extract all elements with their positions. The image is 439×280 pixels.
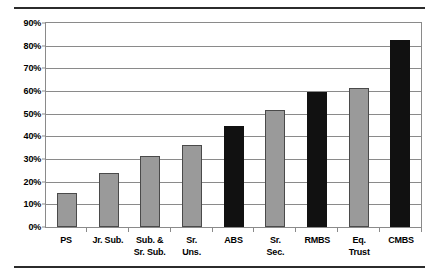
bar [349, 88, 369, 227]
x-axis-tick-mark [87, 228, 129, 232]
bar-slot [254, 23, 296, 227]
y-axis-tick-label: 20% [24, 177, 41, 187]
x-axis-tick-mark [213, 228, 255, 232]
x-axis-category-label: CMBS [380, 234, 422, 258]
top-horizontal-rule [14, 7, 425, 9]
bar-slot [46, 23, 88, 227]
y-axis-tick-label: 90% [24, 18, 41, 28]
x-axis-category-label-line1: Eq. [352, 235, 365, 245]
x-axis-category-label-line1: Jr. Sub. [92, 235, 123, 245]
bar [224, 126, 244, 227]
bar [182, 145, 202, 227]
x-axis-category-label: Sub. &Sr. Sub. [129, 234, 171, 258]
bar-slot [379, 23, 421, 227]
x-axis-tick-mark [254, 228, 296, 232]
x-axis-category-label: ABS [213, 234, 255, 258]
bar [265, 110, 285, 227]
y-axis-tick-label: 10% [24, 199, 41, 209]
bar [307, 92, 327, 227]
y-axis-tick-label: 40% [24, 131, 41, 141]
x-axis-category-label: Eq.Trust [338, 234, 380, 258]
y-axis-tick-label: 30% [24, 154, 41, 164]
bar-slot [213, 23, 255, 227]
x-axis-tick-mark [338, 228, 380, 232]
bar-slot [171, 23, 213, 227]
y-axis-tick-label: 70% [24, 63, 41, 73]
x-axis-category-label: Jr. Sub. [87, 234, 129, 258]
bar [57, 193, 77, 227]
bar [390, 40, 410, 227]
x-axis-category-labels: PSJr. Sub.Sub. &Sr. Sub.Sr.Uns.ABSSr.Sec… [45, 234, 422, 258]
x-axis-category-label-line1: PS [60, 235, 72, 245]
y-axis-tick-label: 0% [28, 222, 41, 232]
x-axis-category-label-line1: RMBS [304, 235, 330, 245]
bar-slot [129, 23, 171, 227]
bar-slot [338, 23, 380, 227]
x-axis-tick-mark [296, 228, 338, 232]
x-axis-category-label-line2: Uns. [171, 246, 213, 258]
x-axis-tick-mark [171, 228, 213, 232]
x-axis-tick-mark [380, 228, 422, 232]
bar-slot [296, 23, 338, 227]
bottom-horizontal-rule [14, 266, 425, 268]
y-axis-tick-label: 50% [24, 109, 41, 119]
x-axis-category-label-line1: Sr. [270, 235, 281, 245]
x-axis-category-label-line2: Sec. [254, 246, 296, 258]
x-axis-category-label-line2: Sr. Sub. [129, 246, 171, 258]
x-axis-category-label: Sr.Sec. [254, 234, 296, 258]
x-axis-category-label-line1: Sub. & [136, 235, 163, 245]
bar-slot [88, 23, 130, 227]
bars-group [46, 23, 421, 227]
bar-chart-figure: 90%80%70%60%50%40%30%20%10%0% PSJr. Sub.… [0, 0, 439, 280]
plot-area: 90%80%70%60%50%40%30%20%10%0% [45, 22, 422, 228]
x-axis-tick-mark [129, 228, 171, 232]
x-axis-category-label: Sr.Uns. [171, 234, 213, 258]
x-axis-category-label-line1: Sr. [186, 235, 197, 245]
x-axis-tick-mark [45, 228, 87, 232]
x-axis-tick-marks [45, 228, 422, 232]
bar [140, 156, 160, 227]
y-axis-tick-label: 80% [24, 41, 41, 51]
x-axis-category-label-line1: ABS [224, 235, 242, 245]
bar [99, 173, 119, 227]
x-axis-category-label: RMBS [296, 234, 338, 258]
y-axis-tick-label: 60% [24, 86, 41, 96]
x-axis-category-label-line1: CMBS [388, 235, 414, 245]
x-axis-category-label-line2: Trust [338, 246, 380, 258]
x-axis-category-label: PS [45, 234, 87, 258]
